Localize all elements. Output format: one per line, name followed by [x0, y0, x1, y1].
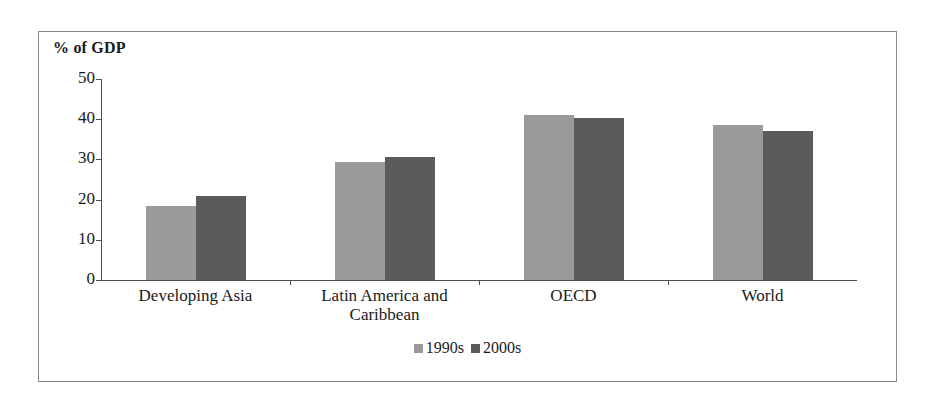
y-tick-mark	[96, 79, 101, 80]
y-tick-label: 50	[78, 68, 95, 88]
legend-swatch-icon	[471, 344, 480, 353]
y-tick-label: 10	[78, 229, 95, 249]
bar[interactable]	[763, 131, 813, 280]
y-tick-mark	[96, 119, 101, 120]
x-tick-mark	[668, 280, 669, 285]
x-category-label: Developing Asia	[101, 286, 290, 305]
y-tick-label: 40	[78, 108, 95, 128]
legend-entry[interactable]: 2000s	[471, 340, 521, 356]
y-tick-mark	[96, 280, 101, 281]
bar[interactable]	[146, 206, 196, 280]
bar-group	[524, 79, 624, 280]
plot-area: 01020304050	[101, 79, 857, 280]
y-tick-mark	[96, 240, 101, 241]
y-tick-label: 30	[78, 148, 95, 168]
y-axis-unit-title: % of GDP	[53, 39, 126, 57]
bar[interactable]	[335, 162, 385, 280]
x-category-label: Latin America and Caribbean	[290, 286, 479, 324]
y-tick-mark	[96, 200, 101, 201]
chart-frame: % of GDP 01020304050 Developing AsiaLati…	[38, 31, 897, 382]
y-axis-line	[101, 79, 102, 280]
bar-group	[146, 79, 246, 280]
legend-label: 1990s	[426, 340, 464, 356]
x-category-label: World	[668, 286, 857, 305]
bar[interactable]	[713, 125, 763, 280]
legend-label: 2000s	[483, 340, 521, 356]
bar[interactable]	[574, 118, 624, 280]
y-tick-label: 20	[78, 189, 95, 209]
x-tick-mark	[479, 280, 480, 285]
chart-legend: 1990s2000s	[39, 340, 896, 356]
legend-entry[interactable]: 1990s	[414, 340, 464, 356]
bar[interactable]	[524, 115, 574, 280]
legend-swatch-icon	[414, 344, 423, 353]
bar[interactable]	[385, 157, 435, 280]
y-tick-label: 0	[87, 269, 96, 289]
bar-group	[335, 79, 435, 280]
y-tick-mark	[96, 159, 101, 160]
x-tick-mark	[290, 280, 291, 285]
bar-group	[713, 79, 813, 280]
bar[interactable]	[196, 196, 246, 280]
x-category-label: OECD	[479, 286, 668, 305]
